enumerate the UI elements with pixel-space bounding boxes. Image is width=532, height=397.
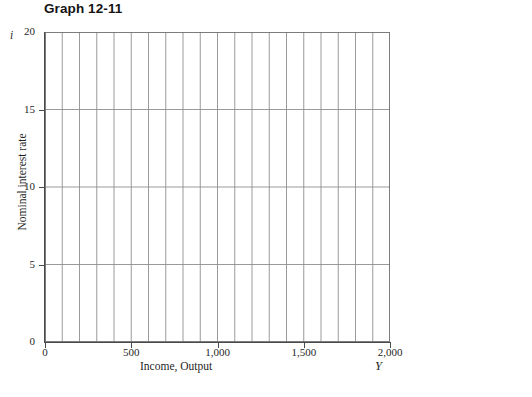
x-tick-label: 2,000 (366, 347, 414, 358)
x-axis-symbol: Y (375, 359, 382, 374)
y-tick-mark (39, 187, 45, 188)
page-title: Graph 12-11 (44, 1, 122, 16)
grid-lines (45, 32, 390, 342)
y-tick-label: 0 (9, 336, 35, 347)
graph-figure: Graph 12-11 i 05101520 05001,0001,5002,0… (0, 0, 532, 397)
page-bottom-edge (0, 391, 532, 397)
plot-area (45, 32, 390, 342)
y-tick-label: 20 (9, 26, 35, 37)
y-tick-mark (39, 110, 45, 111)
x-tick-label: 0 (21, 347, 69, 358)
y-axis-title: Nominal interest rate (16, 82, 28, 282)
x-tick-mark (390, 343, 391, 348)
x-tick-mark (131, 343, 132, 348)
x-tick-label: 1,500 (280, 347, 328, 358)
x-tick-mark (304, 343, 305, 348)
y-tick-mark (39, 265, 45, 266)
x-tick-label: 1,000 (194, 347, 242, 358)
x-tick-mark (218, 343, 219, 348)
x-tick-mark (45, 343, 46, 348)
x-axis-title: Income, Output (140, 360, 212, 372)
x-tick-label: 500 (107, 347, 155, 358)
